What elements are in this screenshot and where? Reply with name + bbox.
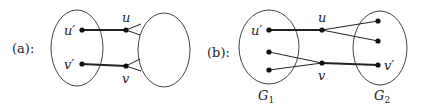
label-u-prime: u′ — [251, 23, 262, 38]
label-u-prime: u′ — [64, 23, 75, 38]
vertex-u — [123, 27, 128, 32]
vertex-v-prime — [375, 62, 380, 67]
vertex-g1-bottom — [266, 67, 271, 72]
g1-ellipse — [239, 10, 299, 84]
left-ellipse — [51, 10, 103, 86]
label-v-prime: v′ — [64, 57, 74, 72]
label-u: u — [318, 10, 326, 25]
label-v-prime: v′ — [384, 58, 394, 73]
edge-vprime-v — [82, 64, 126, 66]
label-u: u — [122, 10, 130, 25]
vertex-g2-mid — [375, 38, 380, 43]
edge-u-g2-top — [322, 21, 378, 30]
vertex-u — [319, 27, 324, 32]
vertex-v — [319, 60, 324, 65]
vertex-u-prime — [266, 27, 271, 32]
label-g1: G1 — [258, 88, 274, 105]
vertex-v-prime — [79, 61, 84, 66]
diagram-canvas: (a): u′ v′ u v (b): — [0, 0, 422, 106]
vertex-v — [123, 63, 128, 68]
label-g2: G2 — [374, 88, 390, 105]
edge-v-g1-mid — [269, 52, 322, 63]
edge-v-vprime — [322, 63, 378, 65]
vertex-u-prime — [79, 27, 84, 32]
right-ellipse — [138, 13, 190, 87]
label-v: v — [122, 71, 130, 86]
panel-a-label: (a): — [12, 41, 34, 56]
panel-b: (b): u′ u v v′ G1 G2 — [207, 10, 407, 105]
vertex-g1-mid — [266, 49, 271, 54]
label-v: v — [318, 68, 326, 83]
edge-u-g2-mid — [322, 30, 378, 41]
panel-b-label: (b): — [207, 45, 230, 60]
panel-a: (a): u′ v′ u v — [12, 10, 190, 87]
vertex-g2-top — [375, 18, 380, 23]
